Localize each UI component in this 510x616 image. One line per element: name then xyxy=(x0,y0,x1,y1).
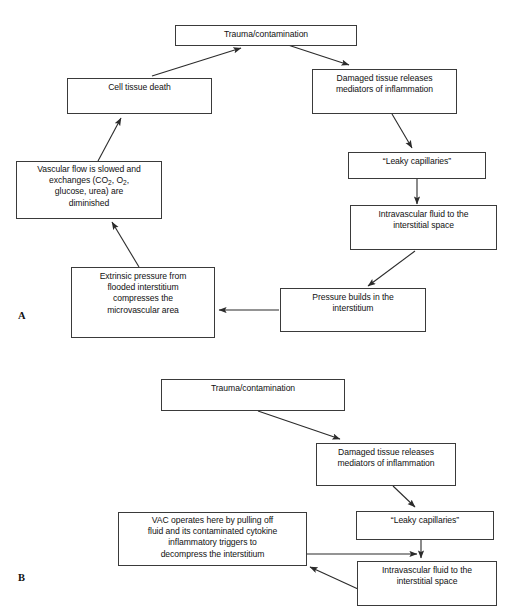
vascular-line2-a: exchanges (CO xyxy=(49,175,108,185)
edge-a-damaged-to-leaky xyxy=(392,114,412,148)
node-a-extrinsic-line1: Extrinsic pressure from xyxy=(72,271,214,282)
node-a-vascular-line2: exchanges (CO2, O2, xyxy=(17,175,161,186)
node-a-leaky-capillaries[interactable]: “Leaky capillaries” xyxy=(348,152,486,179)
node-a-extrinsic-line4: microvascular area xyxy=(72,305,214,316)
node-a-vascular-line4: diminished xyxy=(17,198,161,209)
node-a-leaky-text: “Leaky capillaries” xyxy=(349,156,485,167)
node-b-intravasc-line1: Intravascular fluid to the xyxy=(358,565,496,576)
node-b-vac-line3: inflammatory triggers to xyxy=(119,537,306,548)
node-b-vac-operates[interactable]: VAC operates here by pulling off fluid a… xyxy=(118,512,307,566)
node-b-leaky-text: “Leaky capillaries” xyxy=(357,515,493,526)
node-b-vac-line1: VAC operates here by pulling off xyxy=(119,515,306,526)
node-a-intravascular-fluid[interactable]: Intravascular fluid to the interstitial … xyxy=(350,205,497,250)
node-a-cell-tissue-death[interactable]: Cell tissue death xyxy=(67,78,212,114)
node-a-pressure-line2: interstitium xyxy=(281,303,425,314)
figure-canvas: Trauma/contamination Cell tissue death D… xyxy=(0,0,510,616)
vascular-line2-b: , O xyxy=(112,175,123,185)
panel-a-label: A xyxy=(18,310,26,321)
node-a-extrinsic-pressure[interactable]: Extrinsic pressure from flooded intersti… xyxy=(71,267,215,338)
node-b-vac-line4: decompress the interstitium xyxy=(119,549,306,560)
panel-b-label: B xyxy=(18,572,25,583)
node-a-trauma-text: Trauma/contamination xyxy=(176,29,356,40)
node-a-intravasc-line2: interstitial space xyxy=(351,220,496,231)
node-a-pressure-line1: Pressure builds in the xyxy=(281,292,425,303)
node-b-trauma-contamination[interactable]: Trauma/contamination xyxy=(161,379,345,411)
node-b-vac-line2: fluid and its contaminated cytokine xyxy=(119,526,306,537)
vascular-sub-co2: 2 xyxy=(108,179,112,186)
node-a-extrinsic-line3: compresses the xyxy=(72,293,214,304)
edge-a-intravascular-to-pressure xyxy=(368,251,415,286)
edge-a-trauma-to-damaged xyxy=(288,45,349,65)
node-b-intravasc-line2: interstitial space xyxy=(358,576,496,587)
edge-a-extrinsic-to-vascular xyxy=(112,222,139,267)
edge-b-intravascular-to-vac xyxy=(310,567,358,589)
node-b-intravascular-fluid[interactable]: Intravascular fluid to the interstitial … xyxy=(357,561,497,606)
node-b-damaged-line1: Damaged tissue releases xyxy=(317,447,455,458)
node-a-vascular-line1: Vascular flow is slowed and xyxy=(17,164,161,175)
edge-b-trauma-to-damaged xyxy=(258,411,340,439)
node-b-trauma-text: Trauma/contamination xyxy=(162,383,344,394)
node-a-vascular-flow[interactable]: Vascular flow is slowed and exchanges (C… xyxy=(16,161,162,219)
edge-a-celldeath-to-trauma xyxy=(152,48,241,76)
node-a-trauma-contamination[interactable]: Trauma/contamination xyxy=(175,25,357,46)
vascular-sub-o2: 2 xyxy=(123,179,127,186)
node-a-damaged-line1: Damaged tissue releases xyxy=(313,73,456,84)
node-a-damaged-tissue[interactable]: Damaged tissue releases mediators of inf… xyxy=(312,69,457,114)
node-a-damaged-line2: mediators of inflammation xyxy=(313,84,456,95)
node-a-celldeath-text: Cell tissue death xyxy=(68,82,211,93)
node-a-vascular-line3: glucose, urea) are xyxy=(17,186,161,197)
node-b-damaged-tissue[interactable]: Damaged tissue releases mediators of inf… xyxy=(316,443,456,486)
edge-a-vascular-to-celldeath xyxy=(98,118,121,161)
node-b-damaged-line2: mediators of inflammation xyxy=(317,458,455,469)
node-a-intravasc-line1: Intravascular fluid to the xyxy=(351,209,496,220)
node-b-leaky-capillaries[interactable]: “Leaky capillaries” xyxy=(356,511,494,540)
node-a-pressure-builds[interactable]: Pressure builds in the interstitium xyxy=(280,288,426,332)
edge-b-damaged-to-leaky xyxy=(393,486,415,507)
node-a-extrinsic-line2: flooded interstitium xyxy=(72,282,214,293)
